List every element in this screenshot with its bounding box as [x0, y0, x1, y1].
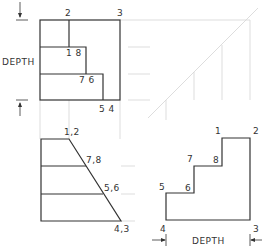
side-view: 1 2 7 8 5 6 4 3 DEPTH — [152, 126, 262, 246]
vertex-label: 1 8 — [66, 48, 82, 58]
vertex-label: 5 — [159, 182, 165, 192]
vertex-label: 8 — [213, 155, 219, 165]
depth-label: DEPTH — [192, 236, 225, 246]
projection-lines — [40, 8, 258, 221]
vertex-label: 4,3 — [114, 224, 130, 234]
vertex-label: 7 — [187, 154, 193, 164]
vertex-label: 7 6 — [79, 75, 95, 85]
front-view: 1,2 7,8 5,6 4,3 — [41, 127, 130, 234]
vertex-label: 5 4 — [99, 104, 115, 114]
vertex-label: 3 — [253, 224, 259, 234]
vertex-label: 3 — [117, 8, 123, 18]
vertex-label: 1 — [215, 126, 221, 136]
vertex-label: 7,8 — [86, 155, 102, 165]
vertex-label: 6 — [185, 183, 191, 193]
top-view: 2 3 1 8 7 6 5 4 DEPTH — [2, 2, 123, 116]
vertex-label: 5,6 — [104, 183, 120, 193]
vertex-label: 1,2 — [64, 127, 80, 137]
miter-line — [148, 8, 258, 118]
depth-label: DEPTH — [2, 57, 35, 67]
vertex-label: 2 — [253, 126, 259, 136]
orthographic-drawing: 2 3 1 8 7 6 5 4 DEPTH 1,2 7,8 5,6 4,3 1 … — [0, 0, 263, 247]
vertex-label: 2 — [65, 8, 71, 18]
vertex-label: 4 — [160, 224, 166, 234]
